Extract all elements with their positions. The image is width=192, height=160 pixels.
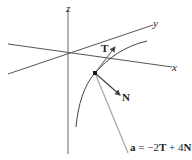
acceleration-N: N <box>183 141 191 153</box>
normal-label: N <box>122 91 130 103</box>
y-axis <box>8 25 153 74</box>
x-axis-label: x <box>171 61 177 73</box>
x-axis <box>8 44 172 67</box>
acceleration-vector <box>95 73 128 153</box>
y-axis-label: y <box>152 17 158 29</box>
z-axis-label: z <box>65 2 71 14</box>
acceleration-eq-part: = −2 <box>136 141 159 153</box>
tangent-label: T <box>101 42 109 54</box>
acceleration-plus-part: + 4 <box>166 141 184 153</box>
vector-diagram: z x y T N a = −2T + 4N <box>0 0 192 160</box>
normal-vector <box>95 73 120 95</box>
acceleration-equation: a = −2T + 4N <box>130 141 191 153</box>
curve-point <box>93 71 97 75</box>
